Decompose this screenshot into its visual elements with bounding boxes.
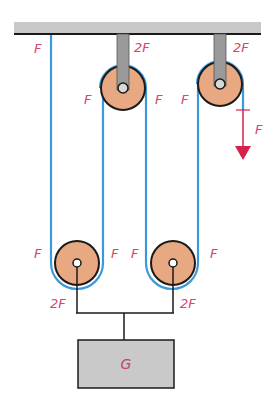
pulley-axle xyxy=(169,259,177,267)
label-lower-pulley-2-left: F xyxy=(131,246,139,261)
label-left-rope-top: F xyxy=(34,41,42,56)
pulley-axle xyxy=(215,79,225,89)
label-upper-pulley-2-left: F xyxy=(181,92,189,107)
label-lower-pulley-2-axle: 2F xyxy=(180,296,196,311)
label-lower-pulley-2-right: F xyxy=(210,246,218,261)
arrow-head-icon xyxy=(235,146,251,160)
pulley-bracket xyxy=(214,34,226,86)
label-lower-pulley-1-left: F xyxy=(34,246,42,261)
label-pull-force: F xyxy=(255,122,263,137)
pulley-axle xyxy=(118,83,128,93)
label-upper-pulley-1-right: F xyxy=(155,92,163,107)
pulley-diagram: G F 2F F F 2F F F F F F F 2F 2F xyxy=(0,0,277,410)
label-upper-pulley-1-left: F xyxy=(84,92,92,107)
pull-force-arrow xyxy=(235,110,251,160)
ceiling xyxy=(14,22,261,34)
pulley-bracket xyxy=(117,34,129,90)
ceiling-beam xyxy=(14,22,261,34)
label-lower-pulley-1-axle: 2F xyxy=(50,296,66,311)
weight-label: G xyxy=(121,356,132,372)
pulley-axle xyxy=(73,259,81,267)
label-upper-pulley-2-bracket: 2F xyxy=(233,40,249,55)
load-assembly: G xyxy=(76,313,174,388)
label-upper-pulley-1-bracket: 2F xyxy=(134,40,150,55)
label-lower-pulley-1-right: F xyxy=(111,246,119,261)
